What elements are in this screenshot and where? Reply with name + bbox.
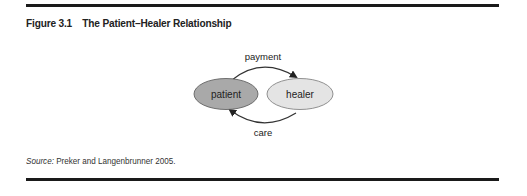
payment-label: payment [245, 51, 282, 62]
source-text: Preker and Langenbrunner 2005. [54, 156, 176, 166]
bottom-rule [26, 178, 499, 181]
source-note: Source: Preker and Langenbrunner 2005. [26, 156, 176, 166]
relationship-diagram: patient healer payment care [0, 0, 527, 196]
healer-label: healer [286, 89, 314, 100]
source-label: Source: [26, 156, 54, 166]
payment-arrow [232, 67, 296, 80]
patient-label: patient [211, 89, 241, 100]
care-arrow [230, 110, 296, 123]
care-label: care [254, 127, 272, 138]
